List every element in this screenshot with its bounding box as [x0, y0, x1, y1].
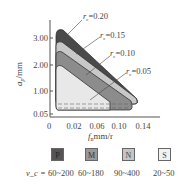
- y-tick: 3.00: [33, 33, 48, 43]
- y-tick: 2.00: [33, 60, 48, 70]
- legend-n: N: [122, 148, 135, 161]
- legend: P M N S: [0, 148, 190, 168]
- y-tick: 0.05: [33, 109, 48, 119]
- label-r005: rε=0.05: [126, 66, 151, 77]
- x-axis-label: fnmm/r: [88, 131, 113, 142]
- y-axis-label: ap/mm: [14, 62, 25, 86]
- x-tick: 0: [47, 121, 51, 131]
- x-tick: 0.02: [67, 121, 82, 131]
- label-r015: rε=0.15: [100, 30, 125, 41]
- legend-s: S: [158, 148, 171, 161]
- vc-label: v_c =: [26, 168, 46, 178]
- y-tick: 1.00: [33, 86, 48, 96]
- label-r020: rε=0.20: [83, 11, 108, 22]
- vc-p: 60~200: [48, 168, 74, 178]
- x-tick: 0.14: [136, 121, 152, 131]
- vc-m: 60~180: [78, 168, 104, 178]
- chart: 3.00 2.00 1.00 0.05 ap/mm rε=0.20 rε=0.1…: [0, 0, 190, 150]
- legend-m: M: [85, 148, 98, 161]
- legend-p: P: [51, 148, 64, 161]
- vc-n: 90~400: [114, 168, 140, 178]
- label-r010: rε=0.10: [110, 48, 135, 59]
- vc-s: 20~50: [153, 168, 175, 178]
- x-tick: 0.10: [112, 121, 127, 131]
- x-tick: 0.06: [90, 121, 105, 131]
